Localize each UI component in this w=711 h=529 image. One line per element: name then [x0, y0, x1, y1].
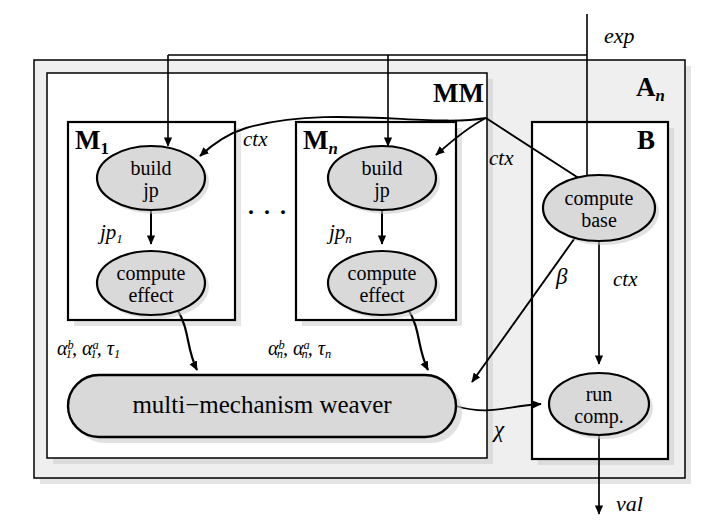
edge-label-beta: β [556, 265, 567, 288]
edge-label-ctx-b: ctx [613, 269, 637, 290]
node-label-build-jp-n: buildjp [328, 158, 436, 200]
edge-label-jp1: jp1 [100, 222, 123, 245]
edge-label-alpha1: αb1, αa1, τ1 [57, 338, 120, 361]
edge-label-alphan: αbn, αan, τn [268, 338, 331, 361]
mechanism-ellipsis: · · · [247, 200, 288, 224]
diagram-canvas: An MM M1 Mn B buildjp computeeffect buil… [0, 0, 711, 529]
node-label-run-comp: runcomp. [543, 384, 655, 426]
edge-label-ctx-left: ctx [243, 129, 267, 150]
container-label-M1: M1 [75, 127, 109, 157]
node-label-build-jp-1: buildjp [97, 158, 205, 200]
container-label-B: B [637, 127, 655, 154]
node-label-weaver: multi−mechanism weaver [68, 392, 456, 417]
node-label-compute-base: computebase [543, 188, 655, 230]
edge-label-exp: exp [604, 25, 635, 47]
edge-label-chi: χ [494, 418, 504, 441]
edge-label-jpn: jpn [329, 222, 352, 245]
container-label-An: An [636, 74, 665, 104]
edge-label-val: val [616, 493, 643, 515]
edge-label-ctx-right: ctx [489, 148, 513, 169]
container-label-MM: MM [433, 80, 484, 107]
container-label-Mn: Mn [303, 127, 338, 157]
node-label-compute-effect-n: computeeffect [328, 263, 436, 305]
node-label-compute-effect-1: computeeffect [97, 263, 205, 305]
